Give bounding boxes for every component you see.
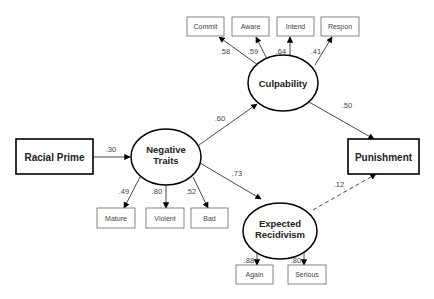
label-respon: Respon xyxy=(328,23,352,31)
coef-recidivism-to-again: .88 xyxy=(244,256,254,265)
coef-culpability-to-commit: .58 xyxy=(220,47,230,56)
coef-culpability-to-aware: .59 xyxy=(248,47,258,56)
path-negative-traits-to-culpability xyxy=(199,104,257,145)
label-again: Again xyxy=(246,271,264,279)
label-violent: Violent xyxy=(154,215,175,222)
path-negative-traits-to-expected-recidivism xyxy=(200,163,261,199)
coef-expected-recidivism-to-punishment: .12 xyxy=(334,180,344,189)
label-mature: Mature xyxy=(105,215,127,222)
path-expected-recidivism-to-punishment xyxy=(313,174,376,210)
coef-recidivism-to-serious: .80 xyxy=(291,256,301,265)
coef-culpability-to-respon: .41 xyxy=(311,47,321,56)
label-bad: Bad xyxy=(203,215,216,222)
coef-culpability-to-punishment: .50 xyxy=(342,101,352,110)
label-aware: Aware xyxy=(241,23,261,30)
coef-negative-traits-to-violent: .80 xyxy=(152,187,162,196)
sem-diagram: Racial Prime Punishment Culpability Nega… xyxy=(0,0,434,299)
coef-negative-traits-to-culpability: .60 xyxy=(215,114,225,123)
coef-negative-traits-to-mature: .49 xyxy=(119,187,129,196)
label-expected-recidivism-2: Recidivism xyxy=(255,229,305,240)
label-negative-traits-1: Negative xyxy=(146,144,186,155)
label-racial-prime: Racial Prime xyxy=(24,152,84,163)
label-punishment: Punishment xyxy=(355,152,413,163)
coef-negative-traits-to-bad: .52 xyxy=(186,187,196,196)
label-culpability: Culpability xyxy=(259,78,308,89)
label-intend: Intend xyxy=(286,23,306,30)
coef-culpability-to-intend: .64 xyxy=(276,47,286,56)
label-expected-recidivism-1: Expected xyxy=(259,218,301,229)
label-commit: Commit xyxy=(193,23,217,30)
label-negative-traits-2: Traits xyxy=(153,155,178,166)
coef-racial-prime-to-negative-traits: .30 xyxy=(106,145,116,154)
label-serious: Serious xyxy=(295,271,319,278)
coef-negative-traits-to-expected-recidivism: .73 xyxy=(232,169,242,178)
